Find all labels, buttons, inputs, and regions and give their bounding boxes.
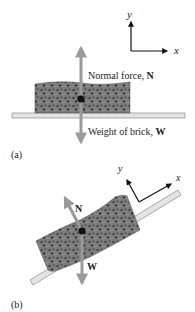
normal-force-symbol: N	[75, 203, 83, 214]
brick-on-incline	[36, 195, 140, 271]
caption-a: (a)	[11, 149, 22, 161]
weight-symbol: W	[87, 261, 97, 272]
brick-force-diagram: y x Normal force, N Weight of brick, W (…	[0, 0, 195, 312]
normal-force-label: Normal force, N	[88, 70, 155, 81]
weight-label: Weight of brick, W	[88, 126, 166, 137]
center-of-mass-dot-incline	[78, 227, 85, 234]
center-of-mass-dot	[77, 95, 84, 102]
horizontal-surface	[12, 113, 185, 118]
axes-a: y x	[126, 8, 179, 56]
caption-b: (b)	[11, 299, 23, 311]
panel-b: y x N W (b)	[11, 163, 181, 311]
x-axis-label: x	[173, 44, 179, 56]
panel-a: y x Normal force, N Weight of brick, W (…	[11, 8, 185, 161]
y-axis-label-tilted: y	[117, 163, 123, 174]
y-axis-label: y	[126, 8, 132, 20]
x-axis-label-tilted: x	[175, 172, 181, 183]
